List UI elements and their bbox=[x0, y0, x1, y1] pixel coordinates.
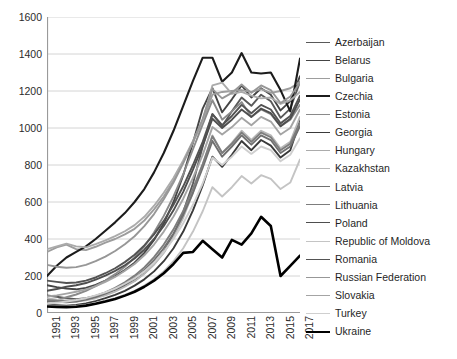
legend-label: Lithuania bbox=[335, 200, 378, 211]
x-axis-tick: 1995 bbox=[90, 316, 101, 339]
x-axis-tick: 2001 bbox=[148, 316, 159, 339]
series-line-azerbaijan bbox=[47, 82, 300, 299]
legend-item-estonia[interactable]: Estonia bbox=[306, 105, 457, 123]
legend-item-georgia[interactable]: Georgia bbox=[306, 123, 457, 141]
legend-line-swatch bbox=[306, 204, 330, 205]
legend-line-swatch bbox=[306, 78, 330, 79]
series-line-georgia bbox=[47, 121, 300, 306]
x-axis-tick: 2015 bbox=[285, 316, 296, 339]
legend-line-swatch bbox=[306, 295, 330, 296]
legend-label: Kazakhstan bbox=[335, 163, 390, 174]
legend-item-belarus[interactable]: Belarus bbox=[306, 51, 457, 69]
legend-label: Poland bbox=[335, 218, 368, 229]
legend-label: Slovakia bbox=[335, 290, 375, 301]
series-canvas bbox=[47, 17, 300, 313]
legend-line-swatch bbox=[306, 132, 330, 133]
legend-label: Hungary bbox=[335, 145, 375, 156]
legend-item-kazakhstan[interactable]: Kazakhstan bbox=[306, 160, 457, 178]
y-axis-tick-labels: 02004006008001000120014001600 bbox=[0, 17, 42, 313]
legend-item-azerbaijan[interactable]: Azerbaijan bbox=[306, 33, 457, 51]
legend-label: Turkey bbox=[335, 308, 367, 319]
legend-label: Georgia bbox=[335, 127, 372, 138]
x-axis-tick-labels: 1991199319951997199920012003200520072009… bbox=[47, 316, 300, 359]
legend-label: Estonia bbox=[335, 109, 370, 120]
y-axis-tick: 1000 bbox=[0, 123, 42, 134]
series-line-turkey bbox=[47, 138, 300, 304]
legend-item-republic-of-moldova[interactable]: Republic of Moldova bbox=[306, 232, 457, 250]
y-axis-tick: 800 bbox=[0, 160, 42, 171]
x-axis-tick: 2007 bbox=[207, 316, 218, 339]
legend-line-swatch bbox=[306, 95, 330, 97]
legend-item-ukraine[interactable]: Ukraine bbox=[306, 323, 457, 341]
y-axis-tick: 200 bbox=[0, 271, 42, 282]
legend-line-swatch bbox=[306, 313, 330, 314]
legend-item-czechia[interactable]: Czechia bbox=[306, 87, 457, 105]
y-axis-tick: 600 bbox=[0, 197, 42, 208]
legend-label: Ukraine bbox=[335, 326, 371, 337]
series-line-hungary bbox=[47, 83, 300, 250]
legend-item-bulgaria[interactable]: Bulgaria bbox=[306, 69, 457, 87]
legend-label: Republic of Moldova bbox=[335, 236, 430, 247]
series-line-bulgaria bbox=[47, 82, 300, 252]
x-axis-tick: 2013 bbox=[265, 316, 276, 339]
x-axis-tick: 1999 bbox=[129, 316, 140, 339]
legend-label: Romania bbox=[335, 254, 377, 265]
legend-label: Russian Federation bbox=[335, 272, 426, 283]
legend-label: Latvia bbox=[335, 182, 363, 193]
legend-line-swatch bbox=[306, 42, 330, 43]
legend-label: Azerbaijan bbox=[335, 37, 385, 48]
x-axis-tick: 2005 bbox=[187, 316, 198, 339]
x-axis-tick: 2011 bbox=[246, 316, 257, 339]
legend-line-swatch bbox=[306, 331, 330, 333]
y-axis-tick: 1600 bbox=[0, 12, 42, 23]
y-axis-tick: 0 bbox=[0, 308, 42, 319]
legend-line-swatch bbox=[306, 150, 330, 151]
y-axis-tick: 400 bbox=[0, 234, 42, 245]
legend-item-hungary[interactable]: Hungary bbox=[306, 142, 457, 160]
chart-screenshot: 02004006008001000120014001600 1991199319… bbox=[0, 0, 457, 359]
y-axis-tick: 1400 bbox=[0, 49, 42, 60]
legend-label: Czechia bbox=[335, 91, 373, 102]
legend-line-swatch bbox=[306, 277, 330, 278]
legend-item-turkey[interactable]: Turkey bbox=[306, 304, 457, 322]
legend-item-latvia[interactable]: Latvia bbox=[306, 178, 457, 196]
legend-line-swatch bbox=[306, 60, 330, 61]
legend: AzerbaijanBelarusBulgariaCzechiaEstoniaG… bbox=[306, 33, 457, 341]
legend-line-swatch bbox=[306, 259, 330, 260]
legend-item-slovakia[interactable]: Slovakia bbox=[306, 286, 457, 304]
legend-item-poland[interactable]: Poland bbox=[306, 214, 457, 232]
legend-line-swatch bbox=[306, 241, 330, 242]
legend-label: Belarus bbox=[335, 55, 371, 66]
legend-line-swatch bbox=[306, 186, 330, 187]
x-axis-tick: 2009 bbox=[226, 316, 237, 339]
legend-item-lithuania[interactable]: Lithuania bbox=[306, 196, 457, 214]
series-line-romania bbox=[47, 96, 300, 283]
x-axis-tick: 1997 bbox=[109, 316, 120, 339]
legend-line-swatch bbox=[306, 168, 330, 169]
legend-item-romania[interactable]: Romania bbox=[306, 250, 457, 268]
plot-area bbox=[47, 17, 300, 313]
y-axis-tick: 1200 bbox=[0, 86, 42, 97]
legend-item-russian-federation[interactable]: Russian Federation bbox=[306, 268, 457, 286]
x-axis-tick: 1991 bbox=[51, 316, 62, 339]
legend-line-swatch bbox=[306, 114, 330, 115]
x-axis-tick: 2003 bbox=[168, 316, 179, 339]
x-axis-tick: 1993 bbox=[70, 316, 81, 339]
legend-label: Bulgaria bbox=[335, 73, 374, 84]
legend-line-swatch bbox=[306, 222, 330, 223]
